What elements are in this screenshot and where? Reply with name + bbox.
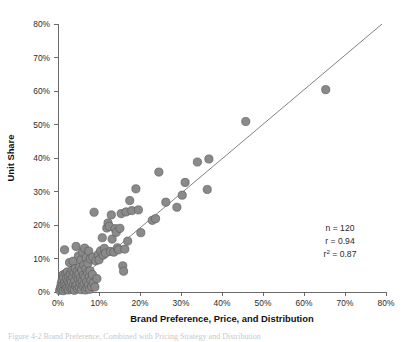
x-tick-label: 60% bbox=[296, 298, 313, 308]
data-point bbox=[162, 198, 170, 206]
data-point bbox=[93, 275, 101, 283]
annotation-sample-size: n = 120 bbox=[326, 223, 355, 233]
data-point bbox=[98, 234, 106, 242]
x-tick-label: 0% bbox=[52, 298, 65, 308]
x-tick-label: 20% bbox=[132, 298, 149, 308]
data-point bbox=[91, 283, 99, 291]
x-tick-label: 80% bbox=[378, 298, 395, 308]
annotation-correlation: r = 0.94 bbox=[325, 236, 355, 246]
y-tick-label: 70% bbox=[33, 53, 50, 63]
x-tick-label: 30% bbox=[173, 298, 190, 308]
x-tick-label: 10% bbox=[91, 298, 108, 308]
data-point bbox=[121, 245, 129, 253]
data-point bbox=[322, 86, 330, 94]
y-tick-label: 20% bbox=[33, 220, 50, 230]
data-point bbox=[155, 168, 163, 176]
figure-caption: Figure 4-2 Brand Preference, Combined wi… bbox=[8, 332, 403, 342]
data-point bbox=[181, 178, 189, 186]
data-point bbox=[178, 191, 186, 199]
data-point bbox=[205, 155, 213, 163]
data-point bbox=[242, 117, 250, 125]
y-tick-label: 60% bbox=[33, 86, 50, 96]
data-point bbox=[132, 185, 140, 193]
data-point-group bbox=[56, 86, 330, 295]
data-point bbox=[173, 203, 181, 211]
data-point bbox=[203, 185, 211, 193]
data-point bbox=[72, 242, 80, 250]
data-point bbox=[126, 196, 134, 204]
data-point bbox=[60, 246, 68, 254]
y-tick-label: 10% bbox=[33, 254, 50, 264]
y-tick-label: 0% bbox=[38, 287, 51, 297]
data-point bbox=[124, 237, 132, 245]
data-point bbox=[137, 229, 145, 237]
data-point bbox=[90, 208, 98, 216]
data-point bbox=[193, 158, 201, 166]
data-point bbox=[151, 215, 159, 223]
y-axis-title: Unit Share bbox=[5, 135, 16, 182]
data-point bbox=[116, 224, 124, 232]
x-axis-title: Brand Preference, Price, and Distributio… bbox=[130, 313, 314, 324]
x-tick-label: 50% bbox=[255, 298, 272, 308]
y-tick-label: 50% bbox=[33, 120, 50, 130]
y-tick-label: 80% bbox=[33, 19, 50, 29]
y-tick-label: 30% bbox=[33, 187, 50, 197]
data-point bbox=[134, 206, 142, 214]
x-tick-label: 40% bbox=[214, 298, 231, 308]
x-tick-label: 70% bbox=[337, 298, 354, 308]
y-tick-label: 40% bbox=[33, 153, 50, 163]
data-point bbox=[107, 211, 115, 219]
annotation-r-squared: r2 = 0.87 bbox=[324, 248, 357, 259]
data-point bbox=[120, 267, 128, 275]
